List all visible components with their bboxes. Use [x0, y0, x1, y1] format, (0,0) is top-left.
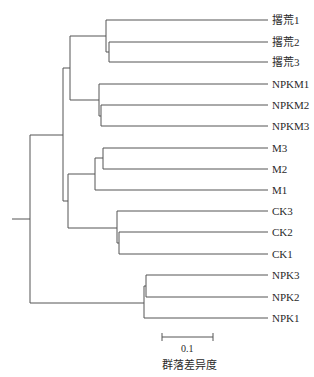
- leaf-label: CK2: [272, 226, 293, 238]
- leaf-label: M3: [272, 142, 287, 154]
- leaf-label: M1: [272, 184, 287, 196]
- leaf-label: CK1: [272, 248, 293, 260]
- leaf-label: CK3: [272, 205, 293, 217]
- dendrogram: [0, 0, 314, 377]
- leaf-label: NPK3: [272, 269, 300, 281]
- scale-bar-title: 群落差异度: [162, 356, 217, 372]
- leaf-label: M2: [272, 163, 287, 175]
- leaf-label: NPKM1: [272, 78, 309, 90]
- leaf-label: 撂荒2: [272, 36, 300, 48]
- leaf-label: NPKM2: [272, 99, 309, 111]
- scale-bar: [162, 333, 213, 341]
- leaf-label: NPK2: [272, 291, 300, 303]
- tree-branches: [12, 20, 268, 318]
- leaf-label: NPK1: [272, 312, 300, 324]
- leaf-label: 撂荒3: [272, 56, 300, 68]
- scale-bar-value: 0.1: [181, 343, 194, 354]
- leaf-label: NPKM3: [272, 120, 309, 132]
- leaf-label: 撂荒1: [272, 14, 300, 26]
